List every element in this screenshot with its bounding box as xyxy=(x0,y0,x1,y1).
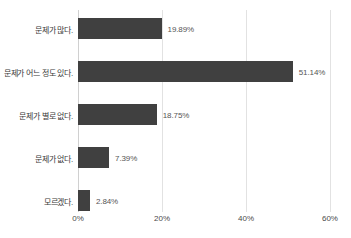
bar-row: 문제가 많다.19.89% xyxy=(78,18,343,39)
x-tick-label: 20% xyxy=(154,214,170,223)
bar-row: 문제가 별로 없다.18.75% xyxy=(78,104,343,125)
bar-row: 문제가 어느 정도 있다.51.14% xyxy=(78,61,343,82)
x-tick-label: 40% xyxy=(238,214,254,223)
bar[interactable] xyxy=(78,61,293,82)
value-label: 7.39% xyxy=(115,153,137,162)
category-label: 문제가 없다. xyxy=(35,152,73,163)
bar[interactable] xyxy=(78,18,162,39)
value-label: 51.14% xyxy=(299,67,326,76)
bar[interactable] xyxy=(78,190,90,211)
category-label: 문제가 별로 없다. xyxy=(19,109,73,120)
x-tick-label: 60% xyxy=(322,214,338,223)
value-label: 19.89% xyxy=(168,24,195,33)
bar[interactable] xyxy=(78,147,109,168)
x-tick-label: 0% xyxy=(72,214,84,223)
category-label: 문제가 어느 정도 있다. xyxy=(4,66,73,77)
category-label: 모르겠다. xyxy=(44,195,73,206)
bar[interactable] xyxy=(78,104,157,125)
plot-area: 문제가 많다.19.89%문제가 어느 정도 있다.51.14%문제가 별로 없… xyxy=(78,10,343,212)
bar-row: 모르겠다.2.84% xyxy=(78,190,343,211)
x-axis: 0%20%40%60% xyxy=(78,212,343,232)
category-label: 문제가 많다. xyxy=(35,23,73,34)
value-label: 18.75% xyxy=(163,110,190,119)
bar-chart: 문제가 많다.19.89%문제가 어느 정도 있다.51.14%문제가 별로 없… xyxy=(0,0,351,238)
value-label: 2.84% xyxy=(96,196,118,205)
bar-row: 문제가 없다.7.39% xyxy=(78,147,343,168)
